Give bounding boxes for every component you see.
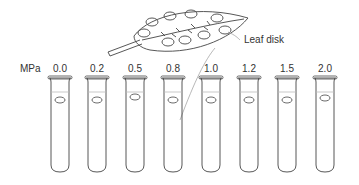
leaf-illustration <box>108 10 248 56</box>
leaf-disk <box>130 94 140 100</box>
tube-rim <box>199 76 223 79</box>
test-tube: 0.0 <box>48 63 72 172</box>
callout-line <box>180 48 215 120</box>
test-tube: 0.2 <box>85 63 109 172</box>
concentration-label: 0.8 <box>166 63 180 74</box>
concentration-label: 0.0 <box>53 63 67 74</box>
concentration-label: 1.0 <box>204 63 218 74</box>
unit-label: MPa <box>20 63 41 74</box>
concentration-label: 0.2 <box>90 63 104 74</box>
leaf-disk <box>320 95 330 101</box>
leaf-disk <box>168 97 178 103</box>
leaf-disk <box>55 97 65 103</box>
tube-rim <box>123 76 147 79</box>
tube-rim <box>237 76 261 79</box>
concentration-label: 1.2 <box>242 63 256 74</box>
concentration-label: 2.0 <box>318 63 332 74</box>
tube-rim <box>275 76 299 79</box>
concentration-label: 0.5 <box>128 63 142 74</box>
test-tube: 1.0 <box>199 63 223 172</box>
leaf-disk-osmosis-diagram: Leaf disk MPa 0.00.20.50.81.01.21.52.0 <box>0 0 359 185</box>
callout-line-top <box>228 32 240 40</box>
leaf-disk <box>282 97 292 103</box>
leaf-disk <box>206 97 216 103</box>
test-tube: 0.5 <box>123 63 147 172</box>
concentration-label: 1.5 <box>280 63 294 74</box>
test-tube: 0.8 <box>161 63 185 172</box>
tube-rim <box>85 76 109 79</box>
test-tube: 2.0 <box>313 63 337 172</box>
test-tube: 1.2 <box>237 63 261 172</box>
tube-rim <box>48 76 72 79</box>
tube-rim <box>161 76 185 79</box>
leaf-disk <box>92 97 102 103</box>
leaf-disk <box>244 97 254 103</box>
leaf-disk-label: Leaf disk <box>244 34 285 45</box>
tube-rim <box>313 76 337 79</box>
test-tube: 1.5 <box>275 63 299 172</box>
test-tubes: 0.00.20.50.81.01.21.52.0 <box>48 63 337 172</box>
